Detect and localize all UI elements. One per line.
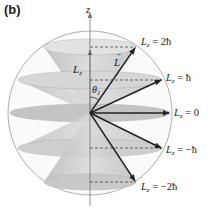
vector-L-label: →L <box>114 56 120 68</box>
lz-component-label: Lz <box>73 63 82 77</box>
level-label-minus-2hbar: Lz = −2ħ <box>141 181 177 194</box>
theta-label: θ1 <box>92 84 100 97</box>
level-label-hbar: Lz = ħ <box>166 72 191 85</box>
level-label-2hbar: Lz = 2ħ <box>141 36 171 49</box>
level-label-0: Lz = 0 <box>174 107 199 120</box>
level-label-minus-hbar: Lz = −ħ <box>166 144 197 157</box>
z-axis-label: z <box>86 4 90 15</box>
